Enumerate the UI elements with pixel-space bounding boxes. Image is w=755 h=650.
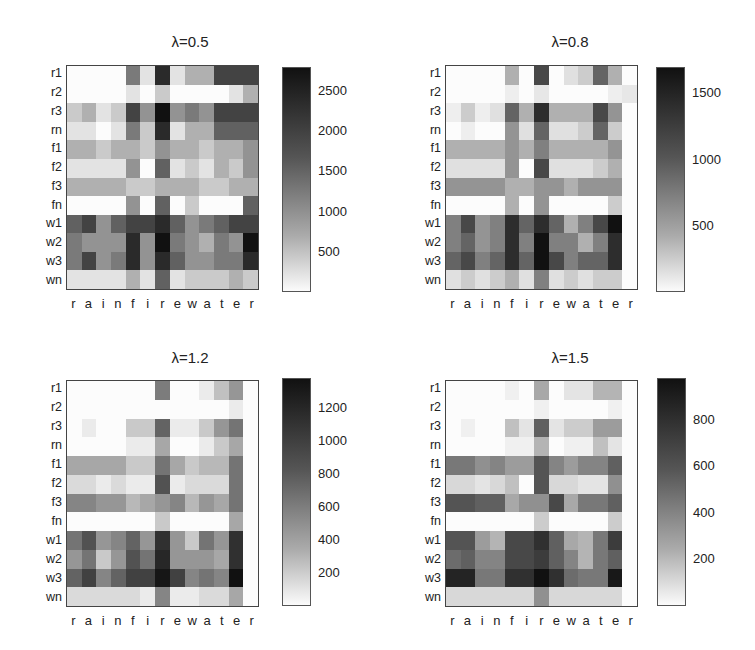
colorbar-tick-label: 1000	[318, 204, 347, 219]
x-tick-label: w	[564, 613, 579, 628]
heatmap-cell	[549, 531, 564, 550]
colorbar-tick-label: 1000	[318, 433, 347, 448]
x-tick-label: r	[534, 296, 549, 311]
heatmap-cell	[140, 512, 155, 531]
heatmap-cell	[608, 531, 623, 550]
heatmap-cell	[564, 475, 579, 494]
heatmap-cell	[534, 215, 549, 234]
heatmap-cell	[446, 252, 461, 271]
heatmap-cell	[214, 233, 229, 252]
heatmap-cell	[199, 270, 214, 289]
heatmap-cell	[549, 233, 564, 252]
heatmap-cell	[608, 159, 623, 178]
y-tick-label: r1	[32, 66, 62, 80]
heatmap-cell	[185, 550, 200, 569]
heatmap-cell	[214, 140, 229, 159]
heatmap-cell	[111, 400, 126, 419]
heatmap-cell	[96, 512, 111, 531]
heatmap-cell	[475, 196, 490, 215]
x-tick-label: e	[229, 613, 244, 628]
heatmap-cell	[229, 85, 244, 104]
heatmap-cell	[549, 178, 564, 197]
heatmap-cell	[564, 178, 579, 197]
heatmap-cell	[214, 550, 229, 569]
heatmap-cell	[82, 437, 97, 456]
heatmap-cell	[185, 419, 200, 438]
heatmap-cell	[475, 475, 490, 494]
heatmap-cell	[170, 122, 185, 141]
heatmap-cell	[170, 531, 185, 550]
heatmap-cell	[229, 400, 244, 419]
y-tick-label: f1	[411, 457, 441, 471]
y-tick-label: wn	[32, 273, 62, 287]
heatmap-cell	[214, 122, 229, 141]
heatmap-cell	[199, 196, 214, 215]
panel-title: λ=1.5	[470, 349, 670, 366]
heatmap-cell	[578, 215, 593, 234]
heatmap-cell	[461, 569, 476, 588]
heatmap-cell	[170, 270, 185, 289]
heatmap-cell	[82, 494, 97, 513]
heatmap-cell	[608, 270, 623, 289]
heatmap-cell	[199, 475, 214, 494]
heatmap-cell	[505, 512, 520, 531]
heatmap-cell	[96, 381, 111, 400]
heatmap-cell	[96, 569, 111, 588]
heatmap-cell	[140, 569, 155, 588]
heatmap-cell	[622, 569, 637, 588]
heatmap-cell	[519, 531, 534, 550]
heatmap-cell	[608, 381, 623, 400]
heatmap-cell	[461, 531, 476, 550]
heatmap-cell	[82, 400, 97, 419]
heatmap-cell	[67, 66, 82, 85]
heatmap-cell	[549, 456, 564, 475]
heatmap-cell	[140, 531, 155, 550]
heatmap-cell	[243, 178, 258, 197]
heatmap-cell	[519, 85, 534, 104]
heatmap-cell	[564, 456, 579, 475]
heatmap-cell	[214, 531, 229, 550]
x-tick-label: f	[504, 613, 519, 628]
heatmap-cell	[534, 103, 549, 122]
x-tick-label: e	[608, 296, 623, 311]
colorbar	[282, 67, 311, 292]
colorbar-tick-label: 500	[692, 218, 714, 233]
heatmap-cell	[96, 140, 111, 159]
heatmap-cell	[155, 215, 170, 234]
heatmap-cell	[564, 122, 579, 141]
heatmap-cell	[519, 437, 534, 456]
heatmap-cell	[608, 178, 623, 197]
heatmap-cell	[126, 178, 141, 197]
heatmap-cell	[534, 122, 549, 141]
heatmap-cell	[96, 419, 111, 438]
heatmap-cell	[96, 400, 111, 419]
heatmap-cell	[505, 437, 520, 456]
heatmap-cell	[505, 475, 520, 494]
heatmap-cell	[534, 531, 549, 550]
heatmap-cell	[140, 178, 155, 197]
heatmap-cell	[505, 494, 520, 513]
heatmap-cell	[461, 140, 476, 159]
heatmap-cell	[549, 587, 564, 606]
heatmap-cell	[534, 550, 549, 569]
heatmap-cell	[564, 66, 579, 85]
heatmap-cell	[140, 233, 155, 252]
heatmap-cell	[170, 66, 185, 85]
heatmap-cell	[140, 159, 155, 178]
heatmap-cell	[490, 512, 505, 531]
heatmap-cell	[111, 270, 126, 289]
heatmap-cell	[490, 103, 505, 122]
heatmap-cell	[461, 456, 476, 475]
heatmap-cell	[199, 85, 214, 104]
heatmap-cell	[549, 400, 564, 419]
heatmap-cell	[199, 140, 214, 159]
heatmap-cell	[534, 159, 549, 178]
heatmap-cell	[243, 159, 258, 178]
y-tick-label: r3	[411, 104, 441, 118]
heatmap-cell	[185, 66, 200, 85]
heatmap-cell	[82, 587, 97, 606]
heatmap-cell	[446, 550, 461, 569]
heatmap-cell	[564, 215, 579, 234]
heatmap-cell	[519, 66, 534, 85]
y-tick-label: w3	[32, 571, 62, 585]
